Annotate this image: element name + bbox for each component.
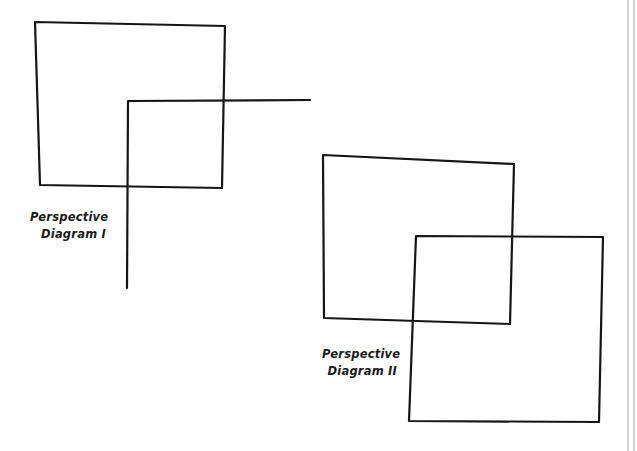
diagram-2-front-square <box>409 236 603 422</box>
diagram-2-caption: Perspective Diagram II <box>322 346 397 380</box>
perspective-diagram-2 <box>323 155 603 422</box>
diagram-2-caption-line2: Diagram II <box>322 363 397 380</box>
diagram-2-back-square <box>323 155 514 324</box>
diagram-2-caption-line1: Perspective <box>322 346 397 363</box>
diagram-1-square <box>35 22 225 188</box>
perspective-diagram-1 <box>35 22 310 288</box>
diagram-1-caption: Perspective Diagram I <box>30 209 106 243</box>
diagram-1-caption-line2: Diagram I <box>30 226 106 243</box>
diagram-1-corner-lines <box>127 100 310 288</box>
diagram-1-caption-line1: Perspective <box>30 209 106 226</box>
